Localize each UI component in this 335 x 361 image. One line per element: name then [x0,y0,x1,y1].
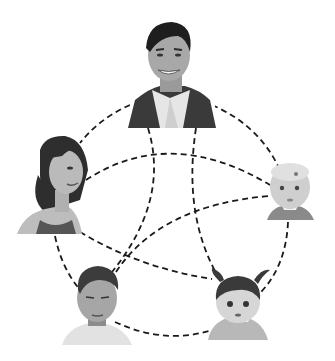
line-baby-girl [258,222,288,295]
portrait-mother [17,136,88,234]
portrait-baby [267,163,314,220]
line-father-girl [192,128,222,283]
illustration-canvas [0,0,335,361]
line-mother-boy [55,236,82,292]
line-father-boy [112,128,154,272]
family-network-illustration: Grayscale illustration of five family me… [0,0,335,361]
portrait-girl [208,268,270,340]
line-father-baby [212,105,278,166]
line-mother-baby [86,154,270,185]
portrait-boy [62,266,132,345]
line-boy-girl [115,322,212,336]
portrait-father [128,22,216,128]
line-father-mother [80,105,130,143]
